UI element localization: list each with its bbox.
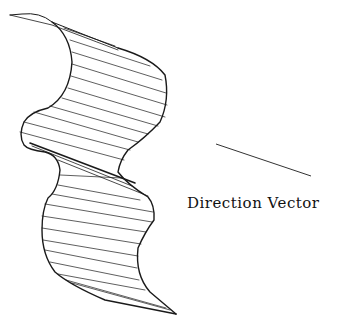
swept-surface — [10, 14, 176, 314]
swept-surface-diagram — [0, 0, 352, 332]
direction-vector-line — [216, 144, 311, 176]
direction-vector-label: Direction Vector — [187, 194, 320, 212]
